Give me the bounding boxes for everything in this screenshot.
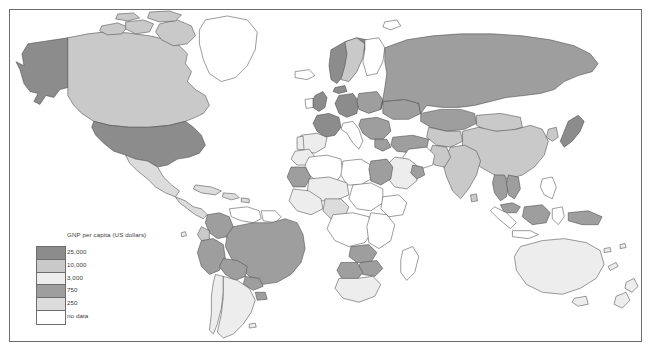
gnp-per-capita-map-figure: GNP per capita (US dollars) 25,000 10,00… [0,0,653,352]
legend-label-10000: 10,000 [67,259,88,272]
country-libya[interactable] [341,159,371,185]
map-legend: GNP per capita (US dollars) 25,000 10,00… [36,231,216,335]
country-philippines[interactable] [540,177,556,199]
island-ellesmere[interactable] [148,11,182,22]
country-alaska[interactable] [16,38,68,105]
legend-swatch-stack [36,246,66,325]
country-thailand[interactable] [492,175,508,201]
map-frame: GNP per capita (US dollars) 25,000 10,00… [9,9,642,342]
island-java[interactable] [512,231,538,239]
country-canada[interactable] [68,32,210,127]
legend-swatch-750 [37,285,65,298]
country-poland[interactable] [357,92,383,114]
island-borneo[interactable] [522,205,550,225]
legend-swatch-25000 [37,247,65,260]
legend-swatch-no-data [37,311,65,324]
island-victoria[interactable] [126,20,154,34]
region-east-africa[interactable] [367,213,395,249]
legend-title: GNP per capita (US dollars) [67,231,146,238]
country-uruguay[interactable] [255,292,267,300]
island-svalbard[interactable] [383,20,401,30]
country-egypt[interactable] [369,159,393,185]
country-australia[interactable] [514,239,604,295]
country-vietnam[interactable] [506,175,520,199]
legend-label-250: 250 [67,297,88,310]
island-pacific-small-b[interactable] [620,244,626,249]
country-denmark[interactable] [333,86,347,94]
region-balkans[interactable] [359,117,391,139]
country-venezuela[interactable] [229,207,261,223]
country-korea[interactable] [546,127,558,141]
country-new-zealand-north[interactable] [625,278,638,292]
country-ireland[interactable] [305,98,313,108]
legend-swatch-10000 [37,260,65,273]
country-greece[interactable] [375,139,391,151]
country-japan[interactable] [560,115,584,147]
island-madagascar[interactable] [401,247,419,281]
island-tasmania[interactable] [572,296,588,306]
region-central-america[interactable] [175,197,207,219]
legend-swatch-250 [37,298,65,311]
country-finland[interactable] [363,38,385,76]
island-arctic-small-a[interactable] [116,13,140,21]
country-greenland[interactable] [199,16,257,82]
island-sri-lanka[interactable] [471,194,478,202]
legend-label-no-data: no data [67,310,88,323]
island-caribbean-small[interactable] [241,198,249,203]
country-papua-new-guinea[interactable] [568,211,602,225]
country-united-kingdom[interactable] [313,92,327,112]
country-iceland[interactable] [295,70,315,80]
country-russia[interactable] [381,34,598,114]
legend-label-750: 750 [67,284,88,297]
island-pacific-small-a[interactable] [604,248,611,253]
legend-label-3000: 3,000 [67,272,88,285]
country-zambia[interactable] [349,245,377,263]
legend-swatch-3000 [37,273,65,286]
country-germany[interactable] [335,93,359,117]
country-sudan[interactable] [349,183,383,211]
country-united-states[interactable] [92,121,206,167]
legend-label-stack: 25,000 10,000 3,000 750 250 no data [67,246,88,323]
island-hispaniola[interactable] [222,193,239,200]
country-new-zealand-south[interactable] [614,292,630,308]
legend-label-25000: 25,000 [67,246,88,259]
country-south-africa[interactable] [335,276,381,302]
island-cuba[interactable] [193,185,221,195]
country-portugal[interactable] [297,136,304,150]
island-falklands[interactable] [249,323,256,328]
island-sulawesi[interactable] [552,207,564,225]
region-congo-basin[interactable] [327,213,373,247]
country-ethiopia[interactable] [381,195,407,217]
island-new-caledonia[interactable] [608,262,618,270]
